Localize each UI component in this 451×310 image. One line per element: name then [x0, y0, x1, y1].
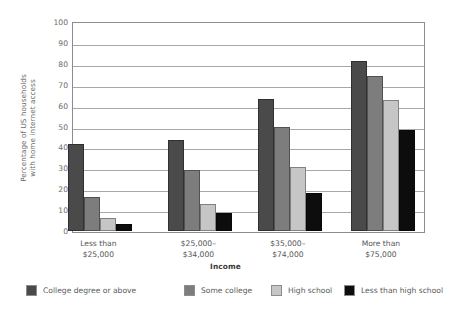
y-axis-title-line-2: with home internet access	[28, 79, 37, 177]
plot-area	[72, 22, 425, 233]
x-axis-tick-label-line: $35,000–	[248, 239, 328, 250]
bar	[100, 218, 116, 231]
bar	[216, 213, 232, 231]
bar	[383, 100, 399, 231]
bar-chart-figure: Percentage of US households with home in…	[0, 0, 451, 310]
x-axis-tick-label-line: $75,000	[341, 250, 421, 261]
y-axis-tick-label: 40	[46, 144, 68, 152]
y-axis-tick-label: 20	[46, 186, 68, 194]
y-axis-tick-label: 70	[46, 82, 68, 90]
bar	[200, 204, 216, 231]
y-axis-tick-label: 100	[46, 19, 68, 27]
y-axis-tick-label: 30	[46, 165, 68, 173]
bar-group	[258, 24, 322, 231]
bar	[258, 99, 274, 231]
chart-legend: College degree or aboveSome collegeHigh …	[26, 281, 430, 299]
bar	[306, 193, 322, 231]
y-axis-tick-label: 90	[46, 40, 68, 48]
legend-item-label: High school	[288, 286, 332, 295]
x-axis-tick-label-line: Less than	[58, 239, 138, 250]
legend-item[interactable]: Some college	[184, 285, 252, 296]
x-axis-tick-label-line: More than	[341, 239, 421, 250]
y-axis-tick-labels: 1009080706050403020100	[44, 22, 68, 233]
x-axis-tick-label-line: $34,000	[158, 250, 238, 261]
y-axis-tick-label: 10	[46, 207, 68, 215]
bar	[399, 130, 415, 231]
bars-layer	[74, 24, 423, 231]
x-axis-tick-label-line: $25,000	[58, 250, 138, 261]
legend-swatch-icon	[26, 285, 37, 296]
bar	[168, 140, 184, 231]
x-axis-tick-label: Less than$25,000	[58, 239, 138, 260]
legend-item[interactable]: Less than high school	[344, 285, 443, 296]
legend-swatch-icon	[184, 285, 195, 296]
bar-group	[68, 24, 132, 231]
y-axis-tick-label: 60	[46, 103, 68, 111]
x-axis-tick-label: $35,000–$74,000	[248, 239, 328, 260]
x-axis-tick-label: More than$75,000	[341, 239, 421, 260]
bar	[367, 76, 383, 231]
bar-group	[351, 24, 415, 231]
bar	[68, 144, 84, 231]
bar	[84, 197, 100, 231]
bar	[184, 170, 200, 231]
x-axis-tick-label: $25,000–$34,000	[158, 239, 238, 260]
y-axis-tick-label: 80	[46, 61, 68, 69]
legend-item-label: Some college	[201, 286, 252, 295]
bar	[290, 167, 306, 231]
legend-swatch-icon	[344, 285, 355, 296]
legend-item[interactable]: College degree or above	[26, 285, 136, 296]
legend-item-label: Less than high school	[361, 286, 443, 295]
y-axis-title: Percentage of US households with home in…	[16, 22, 40, 234]
y-axis-tick-label: 0	[46, 228, 68, 236]
legend-item-label: College degree or above	[43, 286, 136, 295]
y-axis-title-line-1: Percentage of US households	[19, 74, 28, 182]
legend-item[interactable]: High school	[271, 285, 332, 296]
bar	[274, 127, 290, 232]
bar-group	[168, 24, 232, 231]
x-axis-title: Income	[0, 262, 451, 271]
bar	[116, 224, 132, 231]
y-axis-tick-label: 50	[46, 124, 68, 132]
x-axis-tick-label-line: $74,000	[248, 250, 328, 261]
bar	[351, 61, 367, 231]
x-axis-tick-label-line: $25,000–	[158, 239, 238, 250]
legend-swatch-icon	[271, 285, 282, 296]
